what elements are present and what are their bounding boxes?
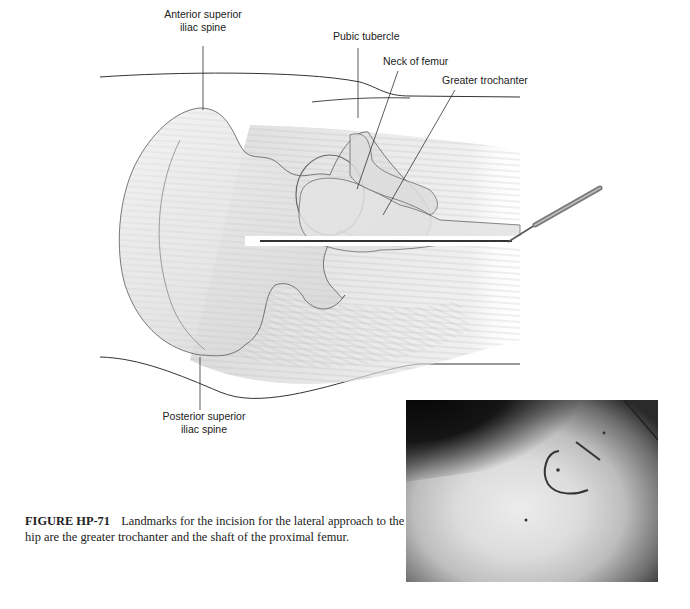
label-anterior-superior-iliac-spine: Anterior superior iliac spine: [158, 8, 248, 34]
label-pubic-tubercle: Pubic tubercle: [333, 30, 400, 43]
label-asis-line1: Anterior superior: [158, 8, 248, 21]
dot-marking-3: [525, 519, 528, 522]
label-asis-line2: iliac spine: [158, 21, 248, 34]
dot-marking-1: [556, 468, 560, 472]
body-contour-top-inner: [312, 98, 410, 102]
label-psis-line2: iliac spine: [156, 423, 252, 436]
arc-marking: [545, 451, 588, 494]
dot-marking-2: [603, 432, 606, 435]
figure-number: FIGURE HP-71: [25, 514, 110, 528]
label-posterior-superior-iliac-spine: Posterior superior iliac spine: [156, 410, 252, 436]
label-psis-line1: Posterior superior: [156, 410, 252, 423]
label-pubic-tubercle-text: Pubic tubercle: [333, 30, 400, 43]
figure-caption: FIGURE HP-71 Landmarks for the incision …: [25, 513, 405, 545]
label-greater-trochanter-text: Greater trochanter: [442, 74, 528, 87]
photo-edge-line: [624, 400, 658, 440]
label-greater-trochanter: Greater trochanter: [442, 74, 528, 87]
label-neck-of-femur: Neck of femur: [383, 55, 448, 68]
skin-markings: [406, 400, 658, 582]
clinical-photo: [406, 400, 658, 582]
line-marking: [576, 442, 600, 460]
label-neck-of-femur-text: Neck of femur: [383, 55, 448, 68]
